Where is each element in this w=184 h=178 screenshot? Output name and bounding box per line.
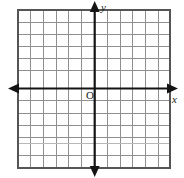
y-axis-label: y — [101, 2, 106, 13]
x-axis-arrow-left — [8, 84, 19, 94]
y-axis-arrow-down — [90, 166, 100, 177]
coordinate-grid-figure: y x O — [0, 0, 184, 178]
x-axis-label: x — [172, 94, 177, 105]
y-axis-arrow-up — [90, 1, 100, 12]
origin-label: O — [86, 90, 94, 101]
x-axis-arrow-right — [167, 84, 178, 94]
